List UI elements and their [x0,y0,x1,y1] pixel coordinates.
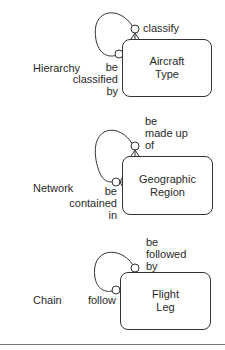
role-label-be-followed-by: be followed by [146,236,186,272]
role-line: made up [145,127,188,139]
role-label-follow: follow [80,294,116,306]
pattern-label-chain: Chain [33,294,62,306]
role-line: followed [146,248,186,260]
role-line: by [146,260,186,272]
entity-name-line: Leg [152,301,179,314]
entity-name-line: Region [139,186,196,199]
role-line: of [145,139,188,151]
role-line: contained [60,197,117,209]
role-line: in [60,209,117,221]
role-line: be [145,115,188,127]
entity-flight-leg: Flight Leg [120,272,211,330]
entity-name-line: Aircraft [150,55,185,68]
entity-name-line: Geographic [139,173,196,186]
role-line: by [66,85,118,97]
entity-aircraft-type: Aircraft Type [122,39,212,97]
hierarchy-top-optional-circle [131,25,139,33]
role-label-be-made-up-of: be made up of [145,115,188,151]
role-line: classified [66,73,118,85]
entity-name-line: Flight [152,288,179,301]
role-line: be [60,185,117,197]
role-line: be [146,236,186,248]
role-label-be-contained-in: be contained in [60,185,117,221]
entity-name-line: Type [150,68,185,81]
bottom-divider [0,344,225,345]
chain-left-optional-circle [112,286,120,294]
role-line: be [66,61,118,73]
role-label-classify: classify [143,22,179,34]
chain-top-optional-circle [131,264,139,272]
role-label-be-classified-by: be classified by [66,61,118,97]
entity-geographic-region: Geographic Region [122,156,213,215]
network-top-optional-circle [131,142,139,150]
